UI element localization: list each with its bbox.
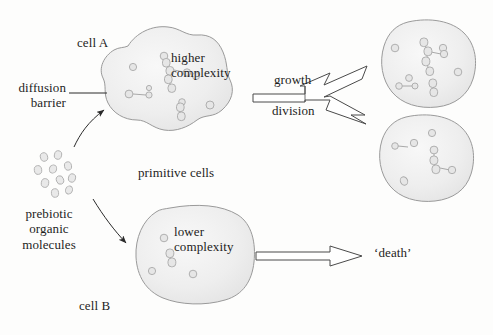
prebiotic-monomer-pool xyxy=(34,150,77,198)
label-cell-a: cell A xyxy=(77,35,108,50)
label-lower-complexity: lowercomplexity xyxy=(174,224,234,255)
label-growth: growth xyxy=(274,72,311,87)
label-cell-b: cell B xyxy=(79,298,110,313)
lower-complexity-line-2: complexity xyxy=(174,239,234,254)
label-death: ‘death’ xyxy=(374,245,412,260)
arrow-pool-to-cell-a xyxy=(74,110,104,147)
diffusion-barrier-line-2: barrier xyxy=(31,95,66,110)
label-diffusion-barrier: diffusionbarrier xyxy=(0,80,66,111)
prebiotic-line-1: prebiotic xyxy=(25,206,72,221)
daughter-cell-top-group xyxy=(382,20,476,108)
diffusion-barrier-line-1: diffusion xyxy=(18,80,66,95)
label-higher-complexity: highercomplexity xyxy=(171,50,231,81)
daughter-cell-bottom-membrane xyxy=(380,115,474,202)
protocell-diagram: cell A diffusionbarrier highercomplexity… xyxy=(0,0,493,335)
higher-complexity-line-2: complexity xyxy=(171,65,231,80)
death-arrow xyxy=(256,246,362,266)
prebiotic-line-3: molecules xyxy=(22,237,76,252)
label-primitive-cells: primitive cells xyxy=(138,165,214,180)
label-division: division xyxy=(272,103,315,118)
arrow-pool-to-cell-b xyxy=(93,199,126,243)
higher-complexity-line-1: higher xyxy=(171,50,205,65)
diagram-canvas xyxy=(0,0,493,335)
lower-complexity-line-1: lower xyxy=(174,224,204,239)
daughter-cell-bottom-group xyxy=(380,115,474,202)
prebiotic-line-2: organic xyxy=(29,221,68,236)
label-prebiotic-organic-molecules: prebioticorganicmolecules xyxy=(4,206,94,252)
